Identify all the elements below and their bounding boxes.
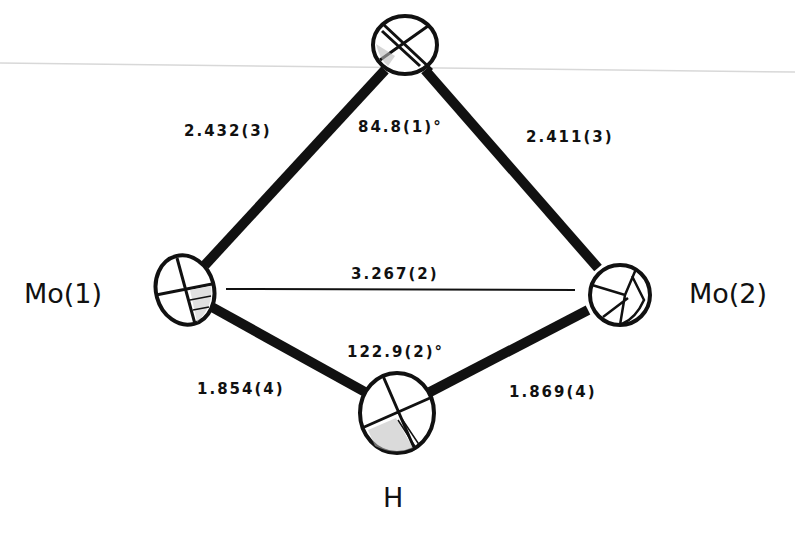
atom-ellipsoid-top (373, 16, 437, 74)
angle-label-h: 122.9(2)° (347, 343, 444, 361)
bond-top-mo2 (425, 70, 598, 268)
bond-h-mo2 (430, 310, 588, 392)
bond-label-mo1-h: 1.854(4) (197, 380, 285, 398)
atom-ellipsoid-h (360, 373, 434, 453)
bond-label-top-mo2: 2.411(3) (526, 128, 614, 146)
distance-line-mo1-mo2 (226, 289, 575, 290)
bond-label-h-mo2: 1.869(4) (509, 383, 597, 401)
atom-label-mo1: Mo(1) (24, 278, 102, 309)
atom-label-mo2: Mo(2) (689, 278, 767, 309)
bond-label-mo1-top: 2.432(3) (184, 122, 272, 140)
distance-label-mo1-mo2: 3.267(2) (351, 265, 439, 283)
atom-ellipsoid-mo2 (590, 265, 650, 325)
bond-mo1-top (205, 70, 385, 265)
atom-label-h: H (383, 482, 403, 513)
angle-label-top: 84.8(1)° (358, 118, 443, 136)
